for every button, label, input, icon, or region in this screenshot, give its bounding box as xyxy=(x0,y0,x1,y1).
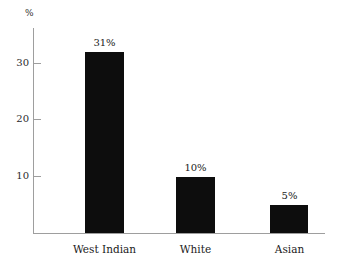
bar-value-asian: 5% xyxy=(265,190,314,201)
bar-asian xyxy=(270,205,308,233)
y-tick-label-10: 10 xyxy=(5,171,29,181)
category-label-west-indian: West Indian xyxy=(60,243,149,255)
bar-west-indian xyxy=(85,52,124,233)
y-tick-mark-30 xyxy=(34,63,41,64)
y-tick-label-30: 30 xyxy=(5,58,29,68)
y-tick-mark-10 xyxy=(34,176,41,177)
bar-chart: % 30 20 10 31% West Indian 10% White 5% … xyxy=(0,0,343,267)
bar-white xyxy=(176,177,215,233)
y-tick-mark-20 xyxy=(34,119,41,120)
category-label-asian: Asian xyxy=(255,243,324,255)
y-tick-label-20: 20 xyxy=(5,114,29,124)
x-axis-line xyxy=(33,233,325,234)
y-axis-line xyxy=(33,28,34,234)
category-label-white: White xyxy=(161,243,230,255)
bar-value-white: 10% xyxy=(171,162,220,173)
y-axis-unit-label: % xyxy=(25,8,34,19)
bar-value-west-indian: 31% xyxy=(80,37,129,48)
